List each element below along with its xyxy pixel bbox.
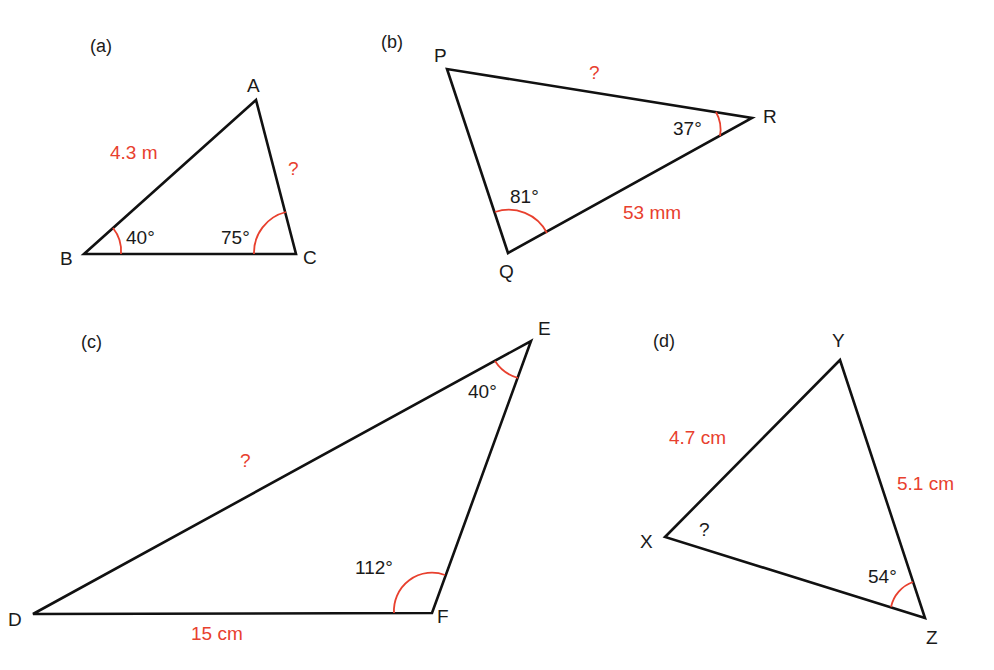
side-label-xy: 4.7 cm: [669, 428, 726, 447]
vertex-label-b: B: [60, 249, 73, 268]
angle-label-c: 75°: [221, 228, 250, 247]
side-label-de: ?: [240, 451, 251, 470]
angle-label-e: 40°: [468, 382, 497, 401]
vertex-label-e: E: [538, 319, 551, 338]
angle-arc-r: [716, 112, 721, 136]
vertex-label-f: F: [437, 607, 449, 626]
side-label-yz: 5.1 cm: [897, 474, 954, 493]
triangle-pqr: [447, 69, 752, 253]
vertex-label-z: Z: [926, 628, 938, 647]
vertex-label-y: Y: [832, 331, 845, 350]
angle-arc-c: [254, 212, 286, 254]
angle-label-r: 37°: [673, 119, 702, 138]
triangle-def: [33, 341, 531, 614]
side-label-ab: 4.3 m: [110, 143, 158, 162]
vertex-label-x: X: [640, 532, 653, 551]
side-label-qr: 53 mm: [623, 203, 681, 222]
side-label-df: 15 cm: [191, 624, 243, 643]
triangle-tag-b: (b): [381, 33, 403, 51]
angle-label-f: 112°: [355, 558, 393, 577]
side-label-ac: ?: [288, 159, 299, 178]
triangle-tag-a: (a): [90, 37, 112, 55]
angle-label-q: 81°: [510, 187, 539, 206]
angle-arc-e: [495, 361, 518, 378]
vertex-label-d: D: [8, 610, 22, 629]
angle-arc-q: [495, 210, 547, 233]
vertex-label-r: R: [763, 107, 777, 126]
angle-label-x: ?: [699, 520, 710, 539]
vertex-label-a: A: [247, 76, 260, 95]
angle-arc-b: [113, 228, 121, 254]
side-label-pr: ?: [589, 63, 600, 82]
vertex-label-c: C: [303, 248, 317, 267]
vertex-label-q: Q: [499, 262, 514, 281]
vertex-label-p: P: [434, 46, 447, 65]
triangle-tag-d: (d): [653, 332, 675, 350]
angle-label-z: 54°: [868, 567, 897, 586]
angle-label-b: 40°: [126, 228, 155, 247]
triangle-tag-c: (c): [81, 333, 102, 351]
